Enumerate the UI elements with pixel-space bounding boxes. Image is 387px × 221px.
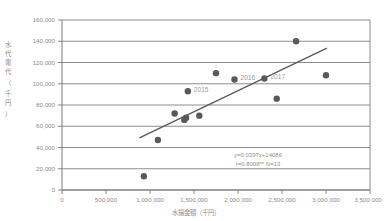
x-tick-label-2000000: 2,000,000: [224, 196, 252, 203]
y-axis-title-char-6: 円: [5, 99, 11, 107]
scatter-point: [323, 72, 329, 78]
scatter-point-label-2017: 2017: [270, 73, 285, 80]
scatter-point: [231, 76, 237, 82]
x-tick-label-0: 0: [60, 196, 64, 203]
x-tick-label-1000000: 1,000,000: [136, 196, 164, 203]
x-tick-label-500000: 500,000: [95, 196, 118, 203]
scatter-point-label-2016: 2016: [240, 74, 255, 81]
scatter-chart: 160,000 140,000 120,000 100,000 80,000 6…: [0, 0, 387, 221]
y-axis-title-char-1: 代: [5, 49, 12, 58]
x-axis-title: 水揚金額（千円）: [172, 208, 220, 217]
x-axis-ticks: [62, 190, 370, 194]
scatter-point: [196, 112, 202, 118]
scatter-point: [141, 173, 147, 179]
scatter-point-label-2015: 2015: [194, 86, 209, 93]
y-axis-title-char-4: （: [5, 79, 12, 87]
y-tick-label-140000: 140,000: [33, 37, 56, 44]
chart-svg: 160,000 140,000 120,000 100,000 80,000 6…: [0, 0, 387, 221]
x-tick-label-1500000: 1,500,000: [180, 196, 208, 203]
x-axis-tick-labels: 0 500,000 1,000,000 1,500,000 2,000,000 …: [60, 196, 382, 203]
y-axis-ticks: [58, 20, 62, 190]
y-axis-title: 水 代 電 代 （ 千 円 ）: [5, 40, 12, 118]
y-axis-title-char-3: 代: [5, 67, 12, 76]
y-axis-title-char-2: 電: [5, 59, 12, 67]
y-tick-label-120000: 120,000: [33, 59, 56, 66]
x-tick-label-2500000: 2,500,000: [268, 196, 296, 203]
y-tick-label-80000: 80,000: [36, 101, 55, 108]
y-axis-title-char-7: ）: [5, 110, 11, 118]
y-axis-title-char-5: 千: [5, 89, 12, 98]
y-axis-title-char-0: 水: [5, 40, 12, 49]
y-axis-tick-labels: 160,000 140,000 120,000 100,000 80,000 6…: [33, 16, 56, 193]
x-tick-label-3500000: 3,500,000: [354, 196, 382, 203]
scatter-point: [213, 70, 219, 76]
scatter-point: [171, 110, 177, 116]
scatter-point: [274, 95, 280, 101]
scatter-point: [185, 88, 191, 94]
y-tick-label-40000: 40,000: [36, 144, 55, 151]
y-tick-label-20000: 20,000: [36, 165, 55, 172]
scatter-point: [261, 75, 267, 81]
scatter-point: [293, 38, 299, 44]
y-tick-label-100000: 100,000: [33, 80, 56, 87]
correlation-stats-label: r=0.8008** N=13: [236, 161, 281, 167]
y-tick-label-0: 0: [52, 186, 56, 193]
regression-equation-label: y=0.0397x+14086: [234, 152, 283, 158]
scatter-point: [183, 115, 189, 121]
y-tick-label-160000: 160,000: [33, 16, 56, 23]
y-tick-label-60000: 60,000: [36, 122, 55, 129]
scatter-point: [155, 137, 161, 143]
x-tick-label-3000000: 3,000,000: [312, 196, 340, 203]
